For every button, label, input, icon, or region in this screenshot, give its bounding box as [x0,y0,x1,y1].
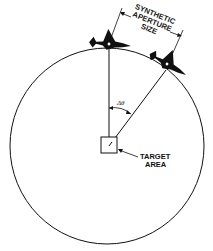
angle-arrow-left [109,106,113,110]
angle-label: Δθ [116,99,125,107]
sar-diagram: Δθ TARGET AREA SYNTHETIC APERTURE SIZE [0,0,213,251]
target-area-box [101,137,117,153]
aperture-ext-1 [111,8,122,38]
target-label-2: AREA [145,160,167,169]
aircraft-icon-1 [89,27,133,52]
